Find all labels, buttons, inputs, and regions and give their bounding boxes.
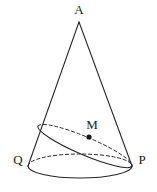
cross-section-near-arc <box>38 126 132 168</box>
slant-line-right <box>79 22 132 166</box>
label-midpoint-m: M <box>86 117 98 132</box>
slant-line-left <box>28 22 79 166</box>
base-circle-back-arc <box>28 154 132 166</box>
cross-section-far-arc <box>38 124 132 166</box>
label-base-right-p: P <box>138 152 145 167</box>
label-base-left-q: Q <box>13 152 23 167</box>
cone-diagram-canvas: A M Q P <box>0 0 157 192</box>
label-apex-a: A <box>74 2 84 17</box>
cone-figure: A M Q P <box>0 0 157 192</box>
base-circle-front-arc <box>28 166 132 178</box>
midpoint-dot <box>86 134 91 139</box>
